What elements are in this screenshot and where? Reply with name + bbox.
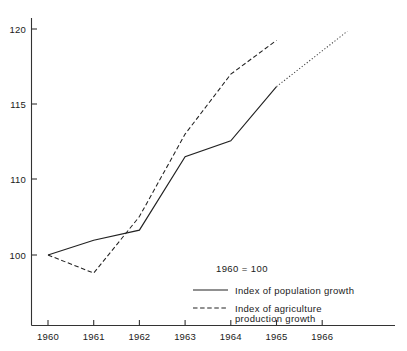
line-chart-canvas: 120 115 110 100 1960 1961 1962 1963 1964… bbox=[0, 0, 407, 351]
axis-group bbox=[32, 18, 396, 326]
legend-label-agriculture-line2: production growth bbox=[235, 313, 316, 324]
chart-figure: 120 115 110 100 1960 1961 1962 1963 1964… bbox=[0, 0, 407, 351]
y-tick-label-110: 110 bbox=[10, 174, 26, 185]
x-tick-label-1964: 1964 bbox=[220, 331, 242, 342]
x-tick-label-1961: 1961 bbox=[83, 331, 105, 342]
y-tick-marks bbox=[32, 29, 38, 255]
series-line-population bbox=[48, 87, 277, 255]
legend-base-note: 1960 = 100 bbox=[216, 263, 268, 274]
series-line-population-extrapolation bbox=[277, 31, 348, 86]
series-group bbox=[48, 31, 347, 273]
y-tick-label-120: 120 bbox=[10, 24, 26, 35]
x-tick-label-1966: 1966 bbox=[311, 331, 333, 342]
x-tick-label-1965: 1965 bbox=[266, 331, 288, 342]
y-tick-labels: 120 115 110 100 bbox=[10, 24, 26, 261]
legend-label-agriculture-line1: Index of agriculture bbox=[235, 303, 322, 314]
legend: 1960 = 100 Index of population growth In… bbox=[193, 263, 354, 324]
x-tick-label-1962: 1962 bbox=[128, 331, 150, 342]
y-tick-label-115: 115 bbox=[10, 99, 26, 110]
series-line-agriculture bbox=[48, 40, 277, 273]
x-tick-label-1960: 1960 bbox=[37, 331, 59, 342]
x-tick-labels: 1960 1961 1962 1963 1964 1965 1966 bbox=[37, 331, 333, 342]
legend-label-population: Index of population growth bbox=[235, 285, 354, 296]
x-tick-label-1963: 1963 bbox=[174, 331, 196, 342]
y-tick-label-100: 100 bbox=[10, 250, 26, 261]
